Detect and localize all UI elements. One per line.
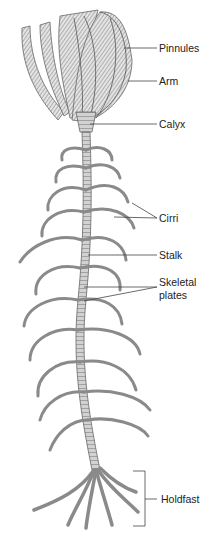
crinoid-diagram: Pinnules Arm Calyx Cirri Stalk Skeletal … (0, 0, 217, 545)
crown (22, 10, 132, 122)
label-stalk: Stalk (159, 249, 182, 261)
crinoid-illustration (0, 0, 217, 545)
label-cirri: Cirri (159, 212, 178, 224)
label-pinnules: Pinnules (159, 42, 199, 54)
label-calyx: Calyx (159, 118, 185, 130)
label-skeletal-plates-line2: plates (159, 289, 187, 301)
calyx (76, 112, 96, 132)
holdfast (34, 468, 138, 528)
label-skeletal-plates-line1: Skeletal (159, 276, 196, 288)
label-holdfast: Holdfast (161, 493, 200, 505)
label-arm: Arm (159, 75, 178, 87)
